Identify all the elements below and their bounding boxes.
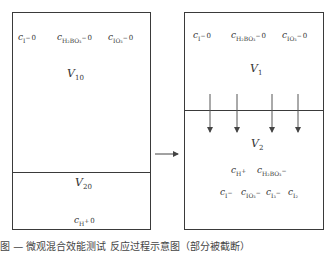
mixing-down-arrows-icon bbox=[210, 94, 298, 132]
figure-caption: 图 — 微观混合效能测试 反应过程示意图（部分被截断） bbox=[0, 238, 334, 253]
